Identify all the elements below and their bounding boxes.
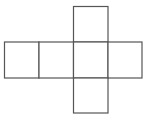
- cube-face-bottom: [74, 78, 109, 113]
- cube-face-row-1: [5, 42, 40, 78]
- cube-net-diagram: [0, 0, 147, 119]
- cube-face-row-2: [39, 42, 74, 78]
- cube-face-row-3: [74, 42, 109, 78]
- cube-face-row-4: [108, 42, 142, 78]
- cube-face-top: [74, 7, 109, 43]
